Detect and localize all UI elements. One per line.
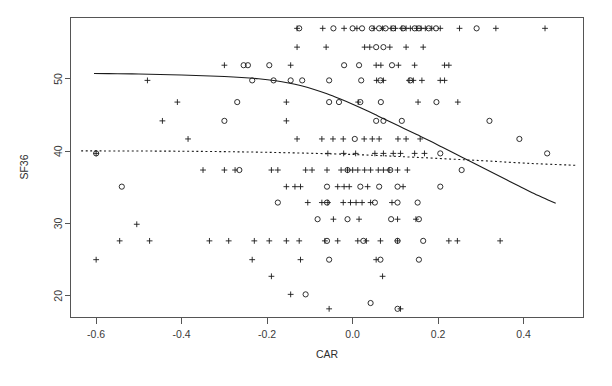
data-point-plus <box>288 291 294 297</box>
data-point-plus <box>335 238 341 244</box>
data-point-plus <box>457 25 463 31</box>
data-point-circle <box>342 63 347 68</box>
data-point-plus <box>200 167 206 173</box>
data-point-plus <box>269 167 275 173</box>
data-point-plus <box>330 136 336 142</box>
data-point-plus <box>497 238 503 244</box>
data-point-circle <box>474 26 479 31</box>
data-point-circle <box>324 184 329 189</box>
data-point-plus <box>419 77 425 83</box>
data-point-circle <box>267 63 272 68</box>
data-point-plus <box>251 238 257 244</box>
data-point-plus <box>446 238 452 244</box>
data-point-plus <box>442 77 448 83</box>
data-point-plus <box>303 167 309 173</box>
data-point-plus <box>340 200 346 206</box>
data-point-circle <box>438 151 443 156</box>
data-point-plus <box>145 77 151 83</box>
data-point-plus <box>350 167 356 173</box>
data-points-layer <box>93 25 550 311</box>
data-point-plus <box>207 238 213 244</box>
data-point-plus <box>403 136 409 142</box>
data-point-circle <box>356 63 361 68</box>
y-axis-title: SF36 <box>18 154 30 179</box>
data-point-plus <box>404 167 410 173</box>
data-point-plus <box>296 238 302 244</box>
data-point-plus <box>362 44 368 50</box>
data-point-circle <box>327 99 332 104</box>
data-point-plus <box>346 184 352 190</box>
data-point-plus <box>355 238 361 244</box>
data-point-plus <box>222 167 228 173</box>
y-tick-label: 50 <box>53 73 65 85</box>
data-point-plus <box>378 62 384 68</box>
x-tick-label: -0.2 <box>258 328 276 340</box>
data-point-plus <box>378 238 384 244</box>
data-point-circle <box>378 99 383 104</box>
x-axis-ticks <box>96 318 524 324</box>
data-point-plus <box>288 62 294 68</box>
data-point-plus <box>185 136 191 142</box>
data-point-plus <box>226 238 232 244</box>
data-point-circle <box>438 184 443 189</box>
data-point-circle <box>415 200 420 205</box>
data-point-plus <box>309 167 315 173</box>
fit-curves-layer <box>81 74 577 204</box>
data-point-plus <box>381 167 387 173</box>
data-point-plus <box>298 184 304 190</box>
solid-fit-curve <box>94 74 556 204</box>
data-point-plus <box>319 200 325 206</box>
data-point-circle <box>421 238 426 243</box>
data-point-circle <box>300 78 305 83</box>
data-point-plus <box>294 136 300 142</box>
data-point-circle <box>381 45 386 50</box>
data-point-plus <box>365 184 371 190</box>
data-point-circle <box>359 78 364 83</box>
data-point-plus <box>400 184 406 190</box>
data-point-circle <box>358 184 363 189</box>
data-point-plus <box>368 167 374 173</box>
data-point-plus <box>415 99 421 105</box>
data-point-plus <box>283 99 289 105</box>
data-point-circle <box>368 300 373 305</box>
data-point-circle <box>275 200 280 205</box>
x-tick-label: 0.0 <box>345 328 360 340</box>
data-point-plus <box>395 136 401 142</box>
data-point-circle <box>331 26 336 31</box>
data-point-plus <box>390 151 396 157</box>
data-point-plus <box>375 167 381 173</box>
data-point-circle <box>303 292 308 297</box>
data-point-circle <box>119 184 124 189</box>
data-point-circle <box>315 217 320 222</box>
data-point-plus <box>266 238 272 244</box>
data-point-plus <box>341 25 347 31</box>
y-tick-label: 30 <box>53 218 65 230</box>
data-point-circle <box>399 118 404 123</box>
data-point-circle <box>377 184 382 189</box>
data-point-plus <box>305 200 311 206</box>
data-point-circle <box>345 217 350 222</box>
data-point-plus <box>387 44 393 50</box>
data-point-plus <box>369 136 375 142</box>
data-point-plus <box>395 167 401 173</box>
plot-canvas: -0.6-0.4-0.20.00.20.4 20304050 CAR SF36 <box>0 0 612 386</box>
data-point-plus <box>331 216 337 222</box>
data-point-circle <box>395 184 400 189</box>
data-point-circle <box>327 257 332 262</box>
data-point-plus <box>341 151 347 157</box>
data-point-plus <box>324 167 330 173</box>
data-point-circle <box>434 99 439 104</box>
series-plus-group <box>93 25 548 311</box>
data-point-plus <box>117 238 123 244</box>
data-point-circle <box>459 167 464 172</box>
data-point-circle <box>395 200 400 205</box>
data-point-plus <box>341 184 347 190</box>
data-point-plus <box>395 62 401 68</box>
series-circle-group <box>94 26 550 312</box>
data-point-circle <box>517 136 522 141</box>
data-point-plus <box>353 200 359 206</box>
y-tick-label: 20 <box>53 290 65 302</box>
data-point-plus <box>283 238 289 244</box>
data-point-plus <box>292 184 298 190</box>
data-point-plus <box>160 118 166 124</box>
